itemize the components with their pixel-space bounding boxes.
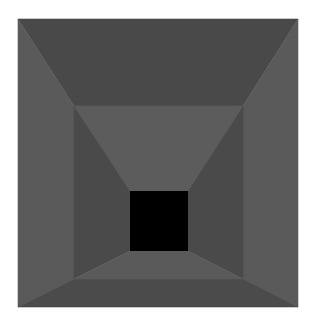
center-black-square xyxy=(130,191,188,251)
nested-squares-artwork xyxy=(0,0,318,326)
